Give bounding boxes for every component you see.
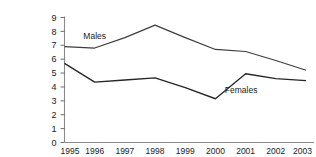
x-tick-label: 1995: [61, 146, 80, 156]
y-tick-label: 4: [51, 82, 56, 92]
x-tick-label: 1999: [176, 146, 195, 156]
series-line-females: [65, 63, 307, 98]
series-label-males: Males: [83, 31, 106, 41]
line-chart: 0123456789 19951996199719981999200020012…: [0, 0, 316, 157]
x-tick-label: 1998: [146, 146, 165, 156]
y-tick-label: 2: [51, 110, 56, 120]
y-tick-label: 0: [51, 138, 56, 148]
y-tick-label: 1: [51, 124, 56, 134]
chart-canvas: 0123456789 19951996199719981999200020012…: [0, 0, 316, 157]
series-label-females: Females: [225, 85, 258, 95]
y-tick-label: 8: [51, 27, 56, 37]
x-tick-label: 2003: [293, 146, 312, 156]
x-tick-label: 2002: [266, 146, 285, 156]
series-annotations: MalesFemales: [83, 31, 257, 95]
y-axis: 0123456789: [51, 13, 64, 148]
y-tick-label: 7: [51, 40, 56, 50]
x-tick-label: 1996: [85, 146, 104, 156]
y-tick-label: 9: [51, 13, 56, 23]
y-tick-label: 3: [51, 96, 56, 106]
x-tick-label: 2001: [236, 146, 255, 156]
x-axis: 199519961997199819992000200120022003: [61, 143, 315, 156]
y-tick-label: 6: [51, 54, 56, 64]
x-tick-label: 1997: [115, 146, 134, 156]
x-tick-label: 2000: [206, 146, 225, 156]
y-tick-label: 5: [51, 68, 56, 78]
